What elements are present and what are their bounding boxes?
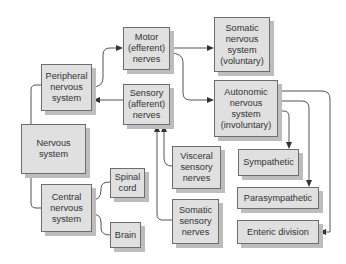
edge-motor-autonomic — [170, 53, 208, 100]
node-parasympathetic: Parasympathetic — [237, 187, 319, 209]
node-enteric-division: Enteric division — [237, 220, 319, 244]
node-somatic-nervous-system: Somatic nervous system (voluntary) — [214, 17, 270, 72]
edge-peripheral-motor — [92, 48, 117, 87]
node-somatic-sensory-nerves: Somatic sensory nerves — [172, 199, 219, 244]
edge-central-brain — [92, 214, 110, 235]
node-spinal-cord: Spinal cord — [110, 168, 145, 198]
edge-nervous-peripheral — [31, 85, 41, 124]
node-sensory-nerves: Sensory (afferent) nerves — [123, 84, 170, 125]
node-brain: Brain — [110, 222, 141, 248]
node-peripheral-nervous-system: Peripheral nervous system — [41, 64, 92, 111]
edge-visceral-sensory — [164, 131, 172, 166]
node-sympathetic: Sympathetic — [238, 149, 299, 176]
edge-central-spinal — [92, 182, 110, 200]
node-autonomic-nervous-system: Autonomic nervous system (involuntary) — [214, 80, 278, 137]
node-central-nervous-system: Central nervous system — [41, 184, 92, 232]
edge-autonomic-sympathetic — [278, 111, 289, 143]
edge-nervous-central — [31, 174, 41, 208]
node-visceral-sensory-nerves: Visceral sensory nerves — [172, 146, 221, 189]
node-motor-nerves: Motor (efferent) nerves — [123, 27, 170, 70]
node-nervous-system: Nervous system — [21, 124, 86, 174]
